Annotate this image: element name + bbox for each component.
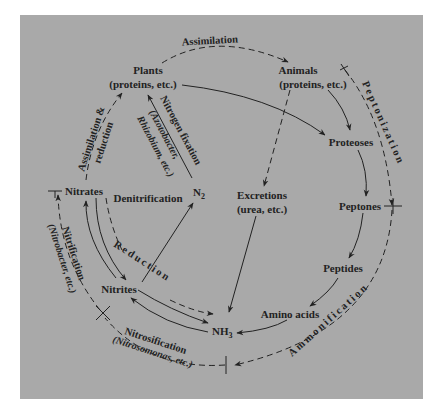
plants-to-proteoses-arrow (182, 85, 325, 135)
excretions-node-sub: (urea, etc.) (237, 203, 288, 216)
assimilation-label: Assimilation (182, 34, 239, 48)
peptones-node: Peptones (339, 200, 382, 212)
animals-node-sub: (proteins, etc.) (279, 78, 347, 91)
nitrates-node: Nitrates (65, 185, 104, 197)
reduction-to-nh3-arrow (170, 300, 213, 314)
proteoses-node: Proteoses (329, 136, 374, 148)
animals-node: Animals (278, 64, 318, 76)
nitrites-to-nh3-arrow (138, 290, 208, 323)
nh3-node: NH3 (212, 325, 233, 340)
nitrates-bar (48, 191, 62, 198)
nitrites-node: Nitrites (101, 283, 137, 295)
assimilation-arrow (162, 46, 288, 63)
peptones-bar (384, 198, 402, 214)
peptides-node: Peptides (323, 262, 363, 274)
excretions-node: Excretions (237, 189, 288, 201)
nitrosification-cross (96, 306, 110, 320)
peptonization-start-bar (340, 64, 349, 76)
nitrates-to-nitrites-arrow (96, 198, 126, 280)
amino-acids-node: Amino acids (261, 308, 320, 320)
proteoses-to-peptones-arrow (358, 150, 366, 196)
n2-node: N2 (193, 186, 205, 201)
peptides-to-amino-acids-arrow (310, 278, 338, 306)
denitrification-label: Denitrification (113, 192, 182, 204)
nitrites-to-nitrates-arrow (86, 201, 116, 278)
excretions-to-nh3-arrow (229, 216, 256, 312)
amino-acids-to-nh3-arrow (237, 320, 287, 333)
peptones-to-peptides-arrow (349, 213, 363, 258)
plants-node-sub: (proteins, etc.) (109, 78, 177, 91)
plants-node: Plants (133, 64, 163, 76)
nitrogen-cycle-diagram: Assimilation Plants (proteins, etc.) Ani… (0, 0, 442, 414)
reduction-label: Reduction (112, 238, 173, 283)
animals-to-proteoses-arrow (328, 90, 350, 130)
nh3-to-nitrites-arrow (131, 298, 208, 332)
